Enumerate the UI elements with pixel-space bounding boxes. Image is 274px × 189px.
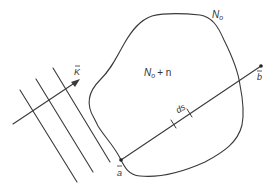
point-b-marker [259,64,263,68]
wavefront-lines [20,68,110,182]
wavefront-line-3 [53,68,110,162]
svg-text:K: K [74,67,81,77]
point-a-marker [119,158,123,162]
path-element-label: ds [174,102,188,116]
arrowhead-icon [71,79,80,87]
point-a-label: a [117,166,122,178]
outside-region-label: No [212,9,223,21]
plasma-region-diagram: No No+ n K b a ds [0,0,274,189]
wave-vector-arrow [13,79,80,124]
svg-text:b: b [257,72,262,82]
region-boundary [89,14,243,177]
svg-text:a: a [117,168,122,178]
point-b-label: b [257,71,262,82]
wavefront-line-2 [36,79,93,172]
wavefront-line-1 [20,90,77,182]
path-line [121,66,261,160]
path-segment [119,64,263,162]
wave-vector-shaft [13,82,76,124]
inside-region-label: No+ n [144,67,171,79]
wave-vector-label: K [74,66,81,77]
